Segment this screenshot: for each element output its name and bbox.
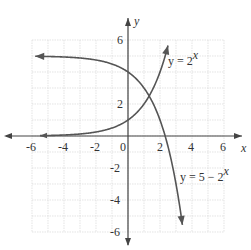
curve-label-2-pow-x: y = 2x [168,48,199,68]
y-axis-down-arrow-icon [125,238,131,246]
svg-text:4: 4 [188,140,194,154]
x-axis-right-arrow-icon [234,133,242,139]
y-axis [125,18,131,246]
svg-text:-2: -2 [90,140,100,154]
svg-text:-6: -6 [26,140,36,154]
svg-text:2: 2 [157,140,163,154]
y-axis-label: y [133,14,140,28]
svg-text:-4: -4 [58,140,68,154]
svg-text:6: 6 [117,33,123,47]
curve-2-pow-x [40,45,168,135]
x-axis [4,133,242,139]
svg-text:0: 0 [120,140,126,154]
curve-2-pow-x-left-arrow-icon [40,133,47,139]
curve-label-5-minus-2-pow-x: y = 5 − 2x [180,164,230,184]
chart: y x -6 -4 -2 0 2 4 6 6 2 -2 -4 -6 y = 2x… [0,0,251,250]
x-axis-label: x [240,141,247,155]
curve-5-minus-2-pow-x-left-arrow-icon [35,53,44,60]
svg-text:-4: -4 [110,193,120,207]
svg-text:6: 6 [220,140,226,154]
y-axis-up-arrow-icon [125,18,131,26]
curve-5-minus-2-pow-x-arrow-icon [178,215,185,224]
svg-text:-6: -6 [110,225,120,239]
x-axis-left-arrow-icon [4,133,12,139]
svg-text:-2: -2 [110,161,120,175]
svg-text:2: 2 [117,97,123,111]
